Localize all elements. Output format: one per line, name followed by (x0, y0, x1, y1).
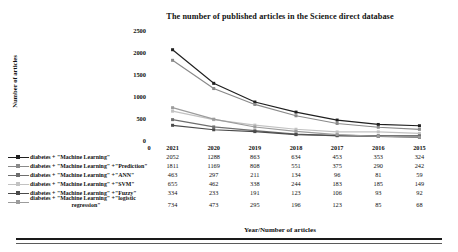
table-cell: 242 (399, 162, 439, 169)
table-cell: 634 (276, 153, 316, 160)
table-cell: 85 (358, 201, 398, 208)
legend-item[interactable]: diabetes + "Machine Learning" +"SVM" (8, 180, 154, 188)
table-column-header: 2021 (153, 144, 193, 151)
table-cell: 297 (194, 171, 234, 178)
table-cell: 863 (235, 153, 275, 160)
table-cell: 295 (235, 201, 275, 208)
series-point-marker (295, 130, 298, 133)
table-cell: 68 (399, 201, 439, 208)
legend-item-label: diabetes + "Machine Learning" +"ANN" (30, 172, 134, 179)
y-tick-label: 2000 (116, 49, 146, 56)
plot-block: Number of articles 05001000150020002500 (0, 24, 458, 146)
series-point-marker (377, 123, 380, 126)
legend-and-data-table: 0 2021202020192018201720162015 diabetes … (0, 144, 458, 222)
legend-item-label: diabetes + "Machine Learning" +"Predicti… (30, 163, 148, 170)
table-cell: 2052 (153, 153, 193, 160)
table-column-header: 2019 (235, 144, 275, 151)
series-point-marker (295, 133, 298, 136)
footer-rule-thin (16, 243, 442, 244)
table-cell: 290 (358, 162, 398, 169)
series-point-marker (418, 124, 421, 127)
table-cell: 463 (153, 171, 193, 178)
legend-color-swatch (8, 163, 29, 170)
series-point-marker (171, 124, 174, 127)
series-point-marker (377, 135, 380, 138)
table-cell: 1169 (194, 162, 234, 169)
series-point-marker (253, 130, 256, 133)
legend-item[interactable]: diabetes + "Machine Learning" (8, 153, 154, 161)
table-cell: 196 (276, 201, 316, 208)
legend-color-swatch (8, 181, 29, 188)
series-point-marker (212, 125, 215, 128)
table-cell: 655 (153, 180, 193, 187)
series-point-marker (171, 59, 174, 62)
figure-root: The number of published articles in the … (0, 0, 458, 252)
series-point-marker (212, 128, 215, 131)
series-point-marker (336, 133, 339, 136)
table-cell: 92 (399, 189, 439, 196)
legend-item[interactable]: diabetes + "Machine Learning" +"ANN" (8, 171, 154, 179)
y-tick-label: 2500 (116, 27, 146, 34)
y-axis-title: Number of articles (11, 46, 18, 118)
table-cell: 375 (317, 162, 357, 169)
table-column-header: 2017 (317, 144, 357, 151)
table-cell: 808 (235, 162, 275, 169)
table-cell: 233 (194, 189, 234, 196)
table-cell: 149 (399, 180, 439, 187)
x-axis-title: Year/Number of articles (110, 226, 450, 234)
table-cell: 59 (399, 171, 439, 178)
table-cell: 551 (276, 162, 316, 169)
series-point-marker (295, 114, 298, 117)
table-cell: 453 (317, 153, 357, 160)
series-point-marker (253, 126, 256, 129)
chart-title: The number of published articles in the … (110, 12, 450, 22)
table-column-header: 2018 (276, 144, 316, 151)
table-cell: 106 (317, 189, 357, 196)
series-point-marker (336, 130, 339, 133)
table-column-header: 2015 (399, 144, 439, 151)
table-cell: 123 (276, 189, 316, 196)
series-point-marker (418, 128, 421, 131)
series-point-marker (418, 136, 421, 139)
table-cell: 334 (153, 189, 193, 196)
series-point-marker (171, 106, 174, 109)
table-cell: 462 (194, 180, 234, 187)
series-point-marker (212, 82, 215, 85)
series-point-marker (171, 110, 174, 113)
table-cell: 96 (317, 171, 357, 178)
legend-color-swatch (8, 172, 29, 179)
table-cell: 134 (276, 171, 316, 178)
table-cell: 183 (317, 180, 357, 187)
legend-item-label: diabetes + "Machine Learning" (30, 154, 110, 161)
series-point-marker (171, 48, 174, 51)
table-cell: 244 (276, 180, 316, 187)
table-cell: 338 (235, 180, 275, 187)
legend-item-label: diabetes + "Machine Learning" +"logistic… (30, 195, 154, 208)
series-point-marker (377, 126, 380, 129)
legend-item[interactable]: diabetes + "Machine Learning" +"Predicti… (8, 162, 154, 170)
legend-item-label: diabetes + "Machine Learning" +"SVM" (30, 181, 135, 188)
table-cell: 473 (194, 201, 234, 208)
table-cell: 93 (358, 189, 398, 196)
table-cell: 734 (153, 201, 193, 208)
y-tick-label: 0 (116, 137, 146, 144)
y-tick-label: 1500 (116, 71, 146, 78)
series-point-marker (212, 118, 215, 121)
y-tick-label: 500 (116, 115, 146, 122)
table-cell: 1811 (153, 162, 193, 169)
series-point-marker (295, 111, 298, 114)
table-cell: 324 (399, 153, 439, 160)
legend-item[interactable]: diabetes + "Machine Learning" +"logistic… (8, 198, 154, 206)
table-cell: 81 (358, 171, 398, 178)
table-cell: 185 (358, 180, 398, 187)
legend-color-swatch (8, 199, 29, 206)
series-point-marker (336, 122, 339, 125)
table-cell: 353 (358, 153, 398, 160)
footer-rule-thick (16, 238, 442, 240)
y-tick-label: 1000 (116, 93, 146, 100)
table-cell: 123 (317, 201, 357, 208)
line-chart-svg (152, 30, 440, 140)
table-column-header: 2020 (194, 144, 234, 151)
table-column-header: 2016 (358, 144, 398, 151)
series-point-marker (171, 118, 174, 121)
